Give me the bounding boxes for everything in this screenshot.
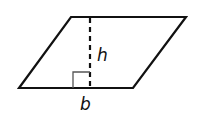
right-angle-marker [73,72,90,88]
parallelogram-diagram: h b [0,0,205,117]
base-label: b [80,94,91,114]
height-label: h [97,45,108,65]
